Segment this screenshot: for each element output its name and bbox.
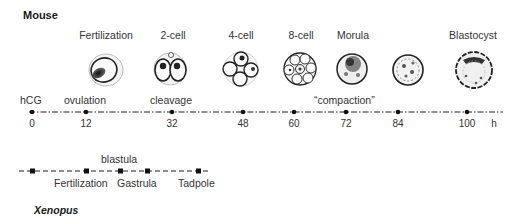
- event-label-compaction: “compaction”: [314, 94, 375, 106]
- hour-label-0: 0: [29, 118, 35, 129]
- hour-label-12: 12: [80, 118, 91, 129]
- hour-label-72: 72: [340, 118, 351, 129]
- zygote-cell: [88, 54, 123, 86]
- event-label-cleavage: cleavage: [150, 94, 192, 106]
- event-label-ovulation: ovulation: [64, 94, 106, 106]
- xenopus-label-blastula: blastula: [101, 153, 137, 165]
- blastocyst-embryo: [456, 52, 492, 88]
- xenopus-label-tadpole: Tadpole: [178, 177, 215, 189]
- hour-label-60: 60: [288, 118, 299, 129]
- hour-label-100: 100: [459, 118, 476, 129]
- hour-label-48: 48: [237, 118, 248, 129]
- xenopus-title: Xenopus: [34, 204, 78, 216]
- hour-label-32: 32: [166, 118, 177, 129]
- two-cell-embryo: [154, 53, 186, 86]
- compacted-morula-embryo: [393, 55, 423, 85]
- four-cell-embryo: [223, 52, 258, 86]
- morula-embryo: [337, 54, 367, 84]
- hour-label-84: 84: [392, 118, 403, 129]
- eight-cell-embryo: [284, 53, 316, 85]
- event-label-hcg: hCG: [20, 94, 42, 106]
- xenopus-label-gastrula: Gastrula: [117, 177, 157, 189]
- xenopus-label-fertilization: Fertilization: [54, 177, 108, 189]
- hour-unit-label: h: [491, 118, 497, 129]
